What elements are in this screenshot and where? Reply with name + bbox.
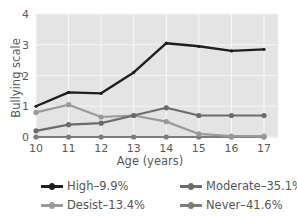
legend-label-desist: Desist–13.4% [67,198,145,212]
legend-label-never: Never–41.6% [206,198,283,212]
legend-swatch-moderate [180,185,202,188]
y-tick-label: 4 [22,8,29,21]
legend-item-high: High–9.9% [41,179,128,193]
legend-label-high: High–9.9% [67,179,128,193]
legend-swatch-high [41,185,63,188]
x-axis-label: Age (years) [117,154,184,168]
x-tick-label: 12 [94,142,108,155]
legend-label-moderate: Moderate–35.1% [206,179,297,193]
legend-item-moderate: Moderate–35.1% [180,179,297,193]
x-tick-label: 11 [62,142,76,155]
legend-swatch-never [180,204,202,207]
legend-swatch-desist [41,204,63,207]
y-tick-label: 2 [22,70,29,83]
y-axis-label: Bullying scale [9,38,23,117]
legend-item-desist: Desist–13.4% [41,198,145,212]
x-tick-label: 17 [257,142,271,155]
x-tick-label: 10 [29,142,43,155]
x-tick-label: 15 [192,142,206,155]
y-tick-label: 0 [22,131,29,144]
legend-item-never: Never–41.6% [180,198,283,212]
y-axis-ticks: 01234 [22,8,29,144]
y-tick-label: 1 [22,100,29,113]
x-tick-label: 16 [224,142,238,155]
y-tick-label: 3 [22,39,29,52]
